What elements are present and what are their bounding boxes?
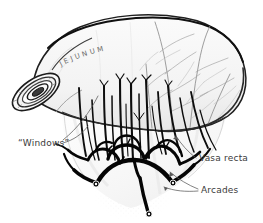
- anatomical-figure: JEJUNUM “Windows” Vasa recta Arcades: [0, 0, 263, 223]
- label-arcades: Arcades: [201, 185, 239, 195]
- label-vasa-recta: Vasa recta: [199, 153, 248, 163]
- label-windows: “Windows”: [18, 138, 69, 148]
- jejunum-mesentery-illustration: JEJUNUM “Windows” Vasa recta Arcades: [0, 0, 263, 223]
